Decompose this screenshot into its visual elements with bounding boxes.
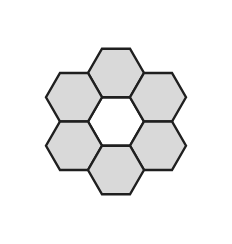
hexagon-rosette-figure: Hexagon rosette of six flat-top hexagons… — [0, 0, 232, 244]
figure-root: Hexagon rosette of six flat-top hexagons… — [0, 0, 232, 244]
